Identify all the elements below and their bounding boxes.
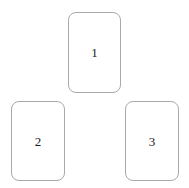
card-3-label: 3 bbox=[149, 135, 156, 148]
card-2-label: 2 bbox=[35, 135, 42, 148]
card-1[interactable]: 1 bbox=[68, 12, 121, 93]
card-2[interactable]: 2 bbox=[11, 101, 65, 181]
card-1-label: 1 bbox=[91, 46, 98, 59]
card-3[interactable]: 3 bbox=[125, 101, 179, 181]
card-layout-canvas: 1 2 3 bbox=[0, 0, 189, 188]
